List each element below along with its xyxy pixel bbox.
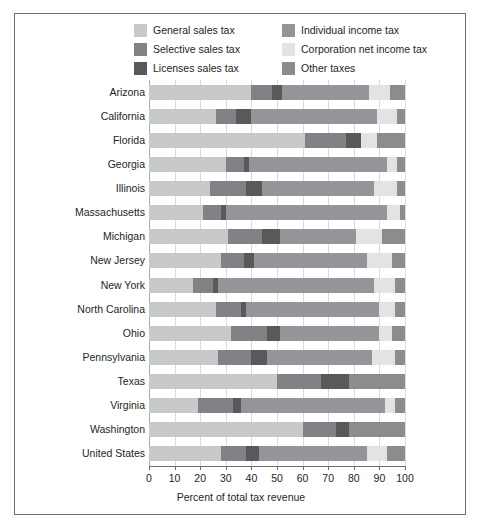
bar-segment-corporation_net	[385, 398, 395, 413]
bar-segment-other_taxes	[395, 302, 405, 317]
bar-segment-individual_income	[246, 302, 379, 317]
bar-segment-licenses_sales	[336, 422, 349, 437]
plot-area-wrapper: ArizonaCaliforniaFloridaGeorgiaIllinoisM…	[15, 80, 467, 516]
bar-segment-licenses_sales	[246, 446, 259, 461]
bar-segment-general_sales	[149, 253, 221, 268]
bar-segment-other_taxes	[395, 278, 405, 293]
legend-label-other_taxes: Other taxes	[301, 62, 355, 75]
bar-segment-other_taxes	[377, 133, 405, 148]
bar-segment-other_taxes	[397, 181, 405, 196]
legend-swatch-licenses_sales	[134, 62, 147, 75]
bar-segment-general_sales	[149, 398, 198, 413]
bar-row	[149, 446, 405, 461]
bar-segment-selective_sales	[210, 181, 246, 196]
legend-label-licenses_sales: Licenses sales tax	[153, 62, 239, 75]
bar-segment-individual_income	[251, 109, 376, 124]
bar-row	[149, 326, 405, 341]
legend-label-individual_income: Individual income tax	[301, 24, 399, 37]
bar-segment-corporation_net	[369, 85, 389, 100]
bar-row	[149, 205, 405, 220]
chart-figure: General sales taxIndividual income taxSe…	[14, 13, 466, 515]
y-axis-label-6: Michigan	[15, 231, 145, 242]
legend-label-corporation_net: Corporation net income tax	[301, 43, 427, 56]
bar-row	[149, 133, 405, 148]
bar-segment-general_sales	[149, 109, 216, 124]
bar-segment-licenses_sales	[251, 350, 266, 365]
y-axis-label-14: Washington	[15, 424, 145, 435]
bar-row	[149, 302, 405, 317]
bar-segment-selective_sales	[221, 253, 244, 268]
bar-segment-other_taxes	[400, 205, 405, 220]
bar-segment-licenses_sales	[236, 109, 251, 124]
bar-segment-selective_sales	[251, 85, 271, 100]
bar-segment-general_sales	[149, 205, 203, 220]
legend-item-general_sales: General sales tax	[134, 21, 282, 40]
legend-label-general_sales: General sales tax	[153, 24, 235, 37]
bar-segment-individual_income	[262, 181, 375, 196]
bar-segment-licenses_sales	[246, 181, 261, 196]
x-tick-80	[354, 466, 355, 470]
x-tick-10	[175, 466, 176, 470]
bar-segment-corporation_net	[379, 326, 392, 341]
bar-segment-corporation_net	[367, 253, 393, 268]
bar-segment-selective_sales	[218, 350, 251, 365]
legend-item-other_taxes: Other taxes	[282, 59, 444, 78]
x-tick-20	[200, 466, 201, 470]
y-axis-label-11: Pennsylvania	[15, 352, 145, 363]
bar-segment-licenses_sales	[346, 133, 361, 148]
bar-segment-individual_income	[280, 229, 357, 244]
bar-segment-general_sales	[149, 181, 210, 196]
x-tick-40	[251, 466, 252, 470]
bar-segment-selective_sales	[216, 302, 242, 317]
bar-segment-selective_sales	[193, 278, 213, 293]
y-axis-label-7: New Jersey	[15, 255, 145, 266]
bar-row	[149, 422, 405, 437]
bar-segment-general_sales	[149, 133, 305, 148]
bar-segment-general_sales	[149, 302, 216, 317]
bar-segment-other_taxes	[395, 398, 405, 413]
bar-segment-corporation_net	[387, 157, 397, 172]
y-axis-label-4: Illinois	[15, 183, 145, 194]
bar-segment-selective_sales	[277, 374, 321, 389]
bar-segment-individual_income	[259, 446, 367, 461]
x-tick-100	[405, 466, 406, 470]
chart-legend: General sales taxIndividual income taxSe…	[134, 21, 444, 79]
legend-item-corporation_net: Corporation net income tax	[282, 40, 444, 59]
bar-row	[149, 350, 405, 365]
legend-item-individual_income: Individual income tax	[282, 21, 444, 40]
bar-segment-other_taxes	[392, 253, 405, 268]
bar-segment-individual_income	[267, 350, 372, 365]
bar-segment-individual_income	[226, 205, 387, 220]
bar-segment-licenses_sales	[267, 326, 280, 341]
bar-segment-selective_sales	[198, 398, 234, 413]
bar-segment-individual_income	[282, 85, 369, 100]
bar-row	[149, 398, 405, 413]
bar-segment-corporation_net	[356, 229, 382, 244]
x-tick-60	[303, 466, 304, 470]
bar-segment-selective_sales	[305, 133, 346, 148]
y-axis-label-15: United States	[15, 448, 145, 459]
bar-segment-general_sales	[149, 278, 193, 293]
bar-segment-other_taxes	[397, 157, 405, 172]
bar-segment-other_taxes	[349, 374, 405, 389]
bar-segment-licenses_sales	[262, 229, 280, 244]
bar-row	[149, 253, 405, 268]
bar-segment-corporation_net	[387, 205, 400, 220]
bar-segment-corporation_net	[367, 446, 387, 461]
bar-segment-other_taxes	[397, 109, 405, 124]
bar-segment-licenses_sales	[321, 374, 349, 389]
y-axis-label-3: Georgia	[15, 159, 145, 170]
bar-segment-general_sales	[149, 229, 228, 244]
bar-segment-licenses_sales	[233, 398, 241, 413]
bar-segment-general_sales	[149, 326, 231, 341]
bar-segment-corporation_net	[372, 350, 395, 365]
x-tick-0	[149, 466, 150, 470]
bar-segment-selective_sales	[228, 229, 261, 244]
bar-row	[149, 157, 405, 172]
bar-segment-individual_income	[218, 278, 374, 293]
legend-item-licenses_sales: Licenses sales tax	[134, 59, 282, 78]
y-axis-label-5: Massachusetts	[15, 207, 145, 218]
bar-segment-other_taxes	[390, 85, 405, 100]
bar-segment-selective_sales	[303, 422, 336, 437]
bar-segment-licenses_sales	[244, 253, 254, 268]
